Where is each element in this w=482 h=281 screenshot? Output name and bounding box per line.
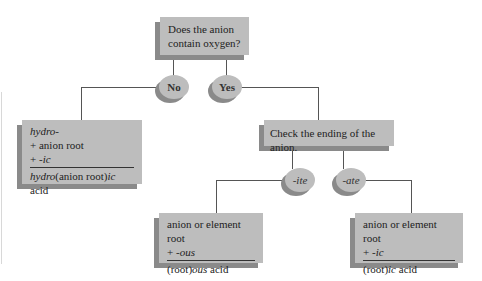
connector-ite-v [216,180,217,213]
check-ending-box: Check the ending of the anion. [264,120,394,146]
ous-line2: + -ous [167,245,255,259]
connector-ate-h [358,180,412,181]
hydro-line1: hydro- [30,124,134,138]
root-question-box: Does the anion contain oxygen? [160,17,249,55]
root-question-line1: Does the anion [168,22,241,36]
branch-ate: -ate [336,168,366,192]
page-edge-line [1,92,2,264]
branch-ite: -ite [285,168,315,192]
ic-result: (root)ic acid [363,262,455,276]
connector-no-v [81,87,82,120]
root-question-line2: contain oxygen? [168,36,241,50]
ous-acid-box: anion or element root + -ous (root)ous a… [159,213,263,263]
connector-no-h [81,87,159,88]
hydro-line3: + -ic [30,152,134,166]
check-ending-text: Check the ending of the anion. [264,120,394,160]
connector-yes-v [318,87,319,120]
ous-rule [167,260,255,261]
connector-ite-h [216,180,286,181]
connector-root-no [173,58,174,76]
hydro-line2: + anion root [30,138,134,152]
ous-result: (root)ous acid [167,262,255,276]
connector-ate-v [411,180,412,213]
hydro-result: hydro(anion root)ic acid [30,169,134,197]
hydro-acid-box: hydro- + anion root + -ic hydro(anion ro… [22,120,142,184]
branch-no: No [159,75,189,99]
connector-root-yes [226,58,227,76]
ic-acid-box: anion or element root + -ic (root)ic aci… [355,213,463,263]
branch-yes: Yes [212,75,242,99]
ic-rule [363,260,455,261]
hydro-rule [30,167,134,168]
ous-line1: anion or element root [167,217,255,245]
connector-yes-h [241,87,319,88]
ic-line1: anion or element root [363,217,455,245]
ic-line2: + -ic [363,245,455,259]
